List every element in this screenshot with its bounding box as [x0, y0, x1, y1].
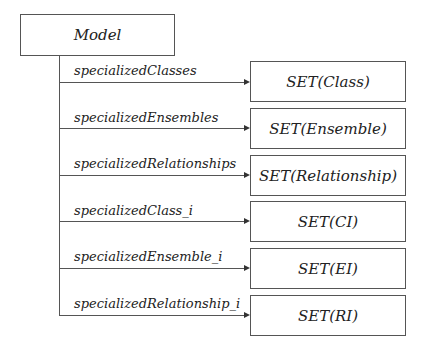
connector-line	[59, 268, 247, 269]
model-box: Model	[20, 14, 175, 56]
target-box: SET(CI)	[250, 201, 406, 242]
relation-label: specializedRelationship_i	[74, 296, 240, 311]
target-label: SET(EI)	[298, 260, 358, 278]
target-label: SET(Ensemble)	[269, 120, 387, 138]
relation-label: specializedClass_i	[74, 203, 193, 218]
target-box: SET(Class)	[250, 61, 406, 102]
target-label: SET(Relationship)	[259, 167, 397, 185]
target-box: SET(Relationship)	[250, 155, 406, 196]
model-structure-diagram: Model specializedClasses SET(Class) spec…	[0, 0, 428, 353]
target-label: SET(CI)	[298, 213, 358, 231]
connector-line	[59, 128, 247, 129]
target-box: SET(RI)	[250, 295, 406, 336]
connector-line	[59, 82, 247, 83]
target-box: SET(Ensemble)	[250, 108, 406, 149]
relation-label: specializedEnsemble_i	[74, 249, 222, 264]
relation-label: specializedClasses	[74, 63, 197, 78]
relation-label: specializedEnsembles	[74, 110, 218, 125]
connector-line	[59, 315, 247, 316]
connector-line	[59, 175, 247, 176]
trunk-line	[59, 56, 60, 316]
target-label: SET(Class)	[286, 73, 370, 91]
relation-label: specializedRelationships	[74, 156, 236, 171]
target-label: SET(RI)	[298, 307, 358, 325]
target-box: SET(EI)	[250, 248, 406, 289]
connector-line	[59, 221, 247, 222]
model-label: Model	[74, 26, 122, 44]
